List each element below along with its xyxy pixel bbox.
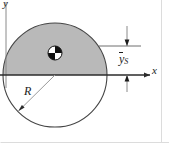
dimension-arrow-upper bbox=[125, 40, 130, 47]
centroid-distance-subscript: S bbox=[124, 57, 128, 66]
semicircle-centroid-figure: y x R yS bbox=[0, 0, 169, 143]
centroid-distance-label: yS bbox=[119, 53, 128, 66]
centroid-marker bbox=[48, 46, 62, 60]
figure-canvas bbox=[0, 0, 169, 143]
x-axis-arrowhead bbox=[144, 73, 150, 78]
dimension-arrow-lower bbox=[125, 75, 130, 82]
radius-label: R bbox=[24, 85, 31, 97]
y-axis-label: y bbox=[3, 0, 8, 9]
centroid-distance-symbol: y bbox=[119, 53, 124, 65]
x-axis-label: x bbox=[152, 65, 157, 76]
